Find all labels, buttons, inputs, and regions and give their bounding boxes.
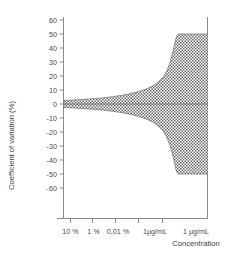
y-tick-label: 0 — [53, 100, 57, 109]
y-tick-label: 40 — [49, 44, 57, 53]
y-tick-label: 60 — [49, 16, 57, 25]
x-axis-title: Concentration — [172, 239, 219, 248]
y-tick-label: -50 — [47, 170, 57, 179]
x-tick-label: 1 % — [87, 227, 100, 236]
y-tick-label: -40 — [47, 156, 57, 165]
horwitz-trumpet-chart: Coefficient of variation (%) 60 50 40 30… — [0, 0, 242, 261]
y-tick-label: 10 — [49, 86, 57, 95]
y-tick-label: 20 — [49, 72, 57, 81]
y-tick-label: -10 — [47, 114, 57, 123]
x-tick-label: 0,01 % — [107, 227, 130, 236]
y-tick-label: 30 — [49, 58, 57, 67]
x-tick-labels: 10 % 1 % 0,01 % 1µg/mL 1 µg/mL — [62, 227, 209, 236]
chart-svg: Coefficient of variation (%) 60 50 40 30… — [0, 0, 242, 261]
y-tick-label: -60 — [47, 184, 57, 193]
y-axis-title: Coefficient of variation (%) — [7, 101, 16, 190]
x-tick-label: 1 µg/mL — [183, 227, 209, 236]
y-axis-ticks — [60, 20, 64, 188]
x-axis-ticks — [71, 219, 163, 224]
y-tick-labels: 60 50 40 30 20 10 0 -10 -20 -30 -40 -50 … — [47, 16, 57, 193]
x-tick-label: 1µg/mL — [143, 227, 167, 236]
y-tick-label: 50 — [49, 30, 57, 39]
x-tick-label: 10 % — [62, 227, 79, 236]
y-tick-label: -20 — [47, 128, 57, 137]
y-tick-label: -30 — [47, 142, 57, 151]
